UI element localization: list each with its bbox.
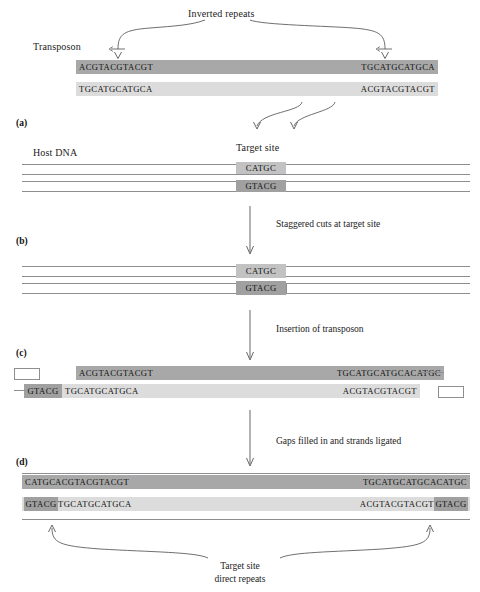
- cut-target-top-sequence: CATGC: [236, 264, 286, 278]
- final-bottom-duplicate-left-sequence: GTACG: [24, 497, 58, 511]
- gap-stub-right: [438, 386, 464, 398]
- cut-bottom-line-1: [22, 283, 236, 284]
- target-site-direct-repeats-label: Target site direct repeats: [180, 560, 300, 585]
- panel-label-d: (d): [16, 457, 28, 467]
- cut-top-line-1: [22, 266, 236, 267]
- cut-bottom-line-4: [286, 293, 470, 294]
- inserted-bottom-strand: TGCATGCATGCA ACGTACGTACGT: [62, 384, 420, 398]
- final-bottom-right-sequence: ACGTACGTACGT: [360, 499, 434, 509]
- transposon-top-right-sequence: TGCATGCATGCA: [361, 62, 435, 72]
- inverted-repeats-label: Inverted repeats: [188, 8, 255, 19]
- inserted-top-left-sequence: ACGTACGTACGT: [79, 368, 153, 378]
- final-top-strand: CATGC ACGTACGTACGT TGCATGCATGCACATGC: [22, 475, 470, 489]
- inserted-bottom-right-sequence: ACGTACGTACGT: [343, 386, 417, 396]
- panel-label-b: (b): [16, 236, 28, 246]
- target-site-top-sequence: CATGC: [236, 162, 286, 174]
- final-bottom-left-sequence: TGCATGCATGCA: [58, 499, 132, 509]
- cut-bottom-line-3: [286, 283, 470, 284]
- inserted-left-tail-line: [14, 390, 26, 391]
- cut-top-line-3: [286, 266, 470, 267]
- final-top-duplicate-sequence: CATGC: [25, 477, 55, 487]
- transposon-label: Transposon: [33, 41, 81, 52]
- step-caption-staggered-cuts: Staggered cuts at target site: [276, 219, 380, 229]
- final-bottom-duplicate-right-sequence: GTACG: [434, 497, 468, 511]
- target-site-label: Target site: [236, 142, 279, 153]
- step-caption-ligation: Gaps filled in and strands ligated: [276, 436, 401, 446]
- transposon-bottom-right-sequence: ACGTACGTACGT: [361, 84, 435, 94]
- step-caption-insertion: Insertion of transposon: [276, 324, 364, 334]
- cut-top-line-2: [22, 276, 236, 277]
- target-site-bottom-sequence: GTACG: [236, 180, 286, 192]
- final-top-right-sequence: TGCATGCATGCACATGC: [363, 477, 467, 487]
- cut-edge-right-bottom: [286, 283, 287, 294]
- transposon-top-strand: ACGTACGTACGT TGCATGCATGCA: [76, 60, 438, 74]
- panel-label-c: (c): [16, 348, 27, 358]
- inserted-top-right-sequence: TGCATGCATGCACATGC: [337, 368, 441, 378]
- panel-label-a: (a): [16, 118, 27, 128]
- gap-stub-left: [14, 368, 40, 380]
- transposon-bottom-strand: TGCATGCATGCA ACGTACGTACGT: [76, 82, 438, 96]
- host-dna-line-2: [22, 174, 470, 175]
- cut-target-bottom-sequence: GTACG: [236, 281, 286, 295]
- inserted-bottom-left-sequence: TGCATGCATGCA: [65, 386, 139, 396]
- transposon-bottom-left-sequence: TGCATGCATGCA: [79, 84, 153, 94]
- direct-repeats-line-1: Target site: [180, 560, 300, 573]
- final-bottom-edge-line: [22, 519, 470, 520]
- inserted-top-strand: ACGTACGTACGT TGCATGCATGCACATGC: [76, 366, 444, 380]
- transposon-insertion-figure: Inverted repeats Transposon (a) ACGTACGT…: [0, 0, 480, 592]
- final-bottom-strand: TGCATGCATGCA ACGTACGTACGT: [22, 497, 470, 511]
- final-top-edge-line: [22, 473, 470, 474]
- cut-top-line-4: [286, 276, 470, 277]
- final-top-left-sequence: ACGTACGTACGT: [55, 477, 129, 487]
- host-dna-label: Host DNA: [33, 147, 77, 158]
- direct-repeats-line-2: direct repeats: [180, 573, 300, 586]
- cut-bottom-line-2: [22, 293, 236, 294]
- inserted-bottom-overhang-sequence: GTACG: [24, 384, 62, 398]
- inserted-right-tail-line: [420, 372, 444, 373]
- transposon-top-left-sequence: ACGTACGTACGT: [79, 62, 153, 72]
